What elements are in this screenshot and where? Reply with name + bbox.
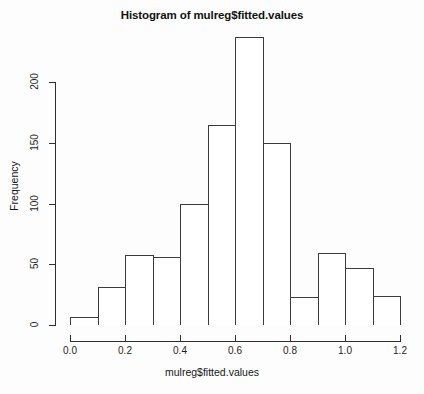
y-tick-mark	[49, 82, 56, 83]
page-title: Histogram of mulreg$fitted.values	[0, 9, 424, 21]
histogram-bar	[235, 37, 264, 325]
histogram-bar	[290, 297, 319, 325]
histogram-bar	[98, 287, 127, 325]
histogram-bar	[153, 257, 182, 325]
x-tick-label: 1.0	[325, 345, 365, 356]
x-tick-label: 0.8	[270, 345, 310, 356]
x-tick-label: 0.2	[105, 345, 145, 356]
x-tick-label: 0.0	[50, 345, 90, 356]
histogram-bar	[263, 143, 292, 325]
y-tick-label: 0	[29, 313, 40, 337]
x-tick-mark	[345, 335, 346, 342]
x-axis-label: mulreg$fitted.values	[0, 366, 424, 378]
x-tick-mark	[400, 335, 401, 342]
y-tick-mark	[49, 325, 56, 326]
y-tick-mark	[49, 264, 56, 265]
x-tick-label: 0.4	[160, 345, 200, 356]
y-tick-mark	[49, 204, 56, 205]
x-tick-label: 1.2	[380, 345, 420, 356]
x-tick-label: 0.6	[215, 345, 255, 356]
y-tick-label: 150	[29, 130, 40, 154]
x-tick-mark	[290, 335, 291, 342]
histogram-bar	[180, 204, 209, 326]
y-tick-mark	[49, 143, 56, 144]
histogram-bar	[125, 255, 154, 325]
y-tick-label: 100	[29, 191, 40, 215]
y-tick-label: 50	[29, 252, 40, 276]
histogram-bar	[70, 317, 99, 326]
y-axis-label: Frequency	[8, 146, 20, 226]
x-tick-mark	[70, 335, 71, 342]
x-tick-mark	[180, 335, 181, 342]
x-tick-mark	[235, 335, 236, 342]
x-tick-mark	[125, 335, 126, 342]
histogram-bar	[318, 253, 347, 325]
histogram-bar	[345, 268, 374, 325]
histogram-bar	[208, 125, 237, 325]
histogram-bar	[373, 296, 402, 325]
y-tick-label: 200	[29, 70, 40, 94]
plot-area	[70, 30, 400, 325]
histogram-plot: Histogram of mulreg$fitted.values 0.00.2…	[0, 0, 424, 394]
